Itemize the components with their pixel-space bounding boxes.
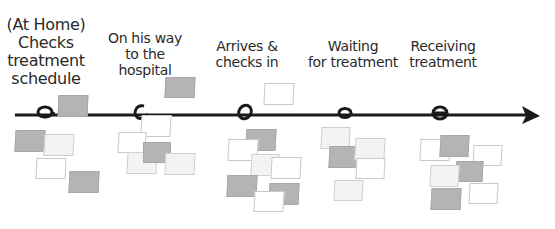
sticky-note (468, 183, 498, 204)
journey-diagram: (At Home) Checks treatment schedule On h… (0, 0, 555, 229)
sticky-note (430, 188, 461, 210)
stage-label-way: On his way to the hospital (108, 30, 182, 78)
sticky-note (164, 77, 195, 98)
sticky-note (68, 171, 99, 193)
sticky-note (263, 83, 294, 105)
sticky-note (43, 134, 75, 156)
stage-label-arrives: Arrives & checks in (216, 38, 279, 70)
sticky-note (14, 130, 45, 152)
sticky-note (35, 158, 66, 179)
stage-label-receiving: Receiving treatment (409, 38, 477, 70)
sticky-note (270, 157, 301, 179)
stage-marker-home (38, 107, 54, 117)
sticky-note (253, 191, 284, 212)
sticky-note (354, 138, 385, 160)
sticky-note (355, 158, 385, 179)
stage-marker-waiting (339, 109, 351, 118)
sticky-note (58, 95, 89, 117)
sticky-note (455, 161, 483, 182)
sticky-note (439, 135, 469, 157)
sticky-note (333, 180, 363, 201)
stage-label-home: (At Home) Checks treatment schedule (6, 16, 85, 88)
stage-marker-receiving (433, 107, 447, 119)
sticky-note (429, 165, 459, 187)
stage-marker-arrives (236, 103, 254, 121)
stage-label-waiting: Waiting for treatment (308, 38, 398, 70)
sticky-note (226, 175, 257, 197)
sticky-note (164, 153, 195, 175)
